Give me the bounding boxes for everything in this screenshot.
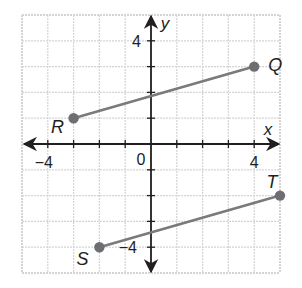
point-label-s: S (76, 249, 88, 269)
x-tick-label: −4 (35, 154, 53, 171)
point-r (68, 113, 78, 123)
point-label-q: Q (268, 55, 282, 75)
coordinate-plane: −4044−4yxRQST (0, 0, 302, 288)
x-tick-label-0: 0 (137, 151, 146, 168)
point-label-t: T (267, 172, 280, 192)
y-axis-label: y (160, 14, 171, 33)
point-t (275, 190, 285, 200)
x-tick-label: 4 (250, 154, 259, 171)
y-tick-label: 4 (132, 33, 141, 50)
point-label-r: R (51, 117, 64, 137)
y-tick-label: −4 (119, 239, 137, 256)
point-q (249, 61, 259, 71)
x-axis-label: x (263, 120, 273, 139)
point-s (94, 242, 104, 252)
